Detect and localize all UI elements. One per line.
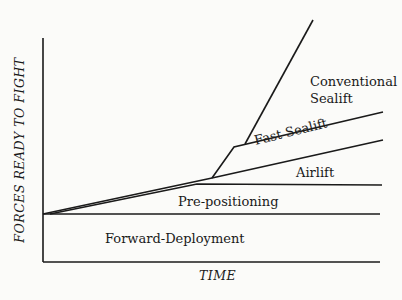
conventional-sealift-label-line2: Sealift xyxy=(310,90,397,107)
forward-deployment-label: Forward-Deployment xyxy=(105,232,245,245)
conventional-sealift-label-line1: Conventional xyxy=(310,73,397,90)
pre-positioning-label: Pre-positioning xyxy=(178,195,278,208)
conventional-sealift-label: Conventional Sealift xyxy=(310,73,397,107)
airlift-label: Airlift xyxy=(296,166,334,179)
diagram-lines xyxy=(0,0,402,300)
y-axis-label: FORCES READY TO FIGHT xyxy=(14,57,27,242)
strategic-mobility-diagram: FORCES READY TO FIGHT TIME Conventional … xyxy=(0,0,402,300)
x-axis-label: TIME xyxy=(199,270,236,283)
